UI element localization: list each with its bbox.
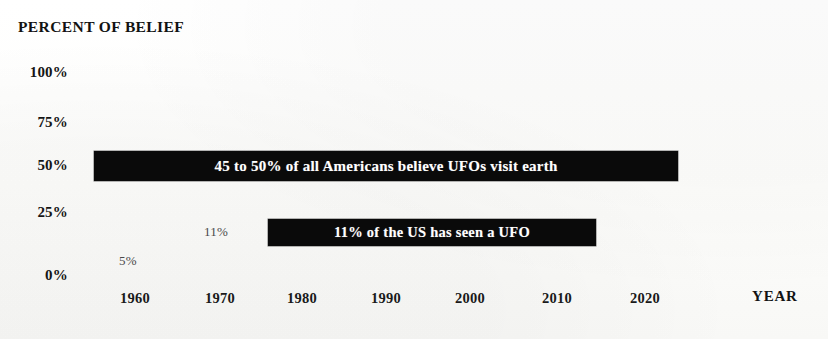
- x-tick-label-1980: 1980: [272, 290, 332, 307]
- chart-plot-area: PERCENT OF BELIEF 100% 75% 50% 25% 0% 45…: [0, 0, 828, 339]
- annotation-5-percent: 5%: [119, 253, 137, 269]
- y-tick-label-100: 100%: [8, 64, 68, 81]
- x-tick-label-2020: 2020: [615, 290, 675, 307]
- x-tick-label-1970: 1970: [190, 290, 250, 307]
- bar-seen-a-ufo[interactable]: 11% of the US has seen a UFO: [268, 219, 596, 246]
- y-tick-label-0: 0%: [8, 267, 68, 284]
- x-tick-label-2000: 2000: [440, 290, 500, 307]
- y-tick-label-75: 75%: [8, 114, 68, 131]
- bar-label: 11% of the US has seen a UFO: [334, 224, 530, 241]
- bar-belief-ufos-visit-earth[interactable]: 45 to 50% of all Americans believe UFOs …: [94, 151, 678, 181]
- x-tick-label-2010: 2010: [527, 290, 587, 307]
- x-axis-title: YEAR: [752, 288, 798, 305]
- y-tick-label-50: 50%: [8, 157, 68, 174]
- x-tick-label-1990: 1990: [356, 290, 416, 307]
- y-tick-label-25: 25%: [8, 204, 68, 221]
- annotation-11-percent: 11%: [204, 224, 228, 240]
- bar-label: 45 to 50% of all Americans believe UFOs …: [214, 158, 557, 175]
- chart-y-axis-title: PERCENT OF BELIEF: [18, 18, 184, 36]
- x-tick-label-1960: 1960: [105, 290, 165, 307]
